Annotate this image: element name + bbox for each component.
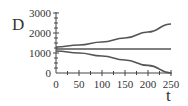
chart: D t 3000 2000 1000 0 0 50 100 150 200 25… xyxy=(0,0,188,106)
y-tick-2000: 2000 xyxy=(29,27,52,39)
x-tick-100: 100 xyxy=(94,78,111,90)
series-upper-line xyxy=(56,24,171,47)
y-tick-3000: 3000 xyxy=(29,7,52,19)
x-tick-50: 50 xyxy=(74,78,86,90)
x-tick-0: 0 xyxy=(53,78,59,90)
series-lower-line xyxy=(56,51,171,73)
x-tick-250: 250 xyxy=(163,78,180,90)
series-lines xyxy=(56,24,171,73)
x-tick-200: 200 xyxy=(140,78,157,90)
y-tick-0: 0 xyxy=(46,67,52,79)
y-tick-1000: 1000 xyxy=(29,47,52,59)
x-tick-150: 150 xyxy=(117,78,134,90)
y-axis-label: D xyxy=(12,15,24,34)
